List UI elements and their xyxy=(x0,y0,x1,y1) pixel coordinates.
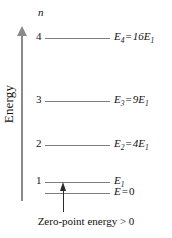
level-value: 9E xyxy=(133,93,145,105)
level-equals: = xyxy=(124,30,132,42)
energy-axis-label: Energy xyxy=(1,74,17,134)
level-symbol: E xyxy=(114,93,121,105)
level-value: 4E xyxy=(133,137,145,149)
level-number: 4 xyxy=(36,30,42,42)
level-label: E3=9E1 xyxy=(114,93,149,105)
level-label: E2=4E1 xyxy=(114,137,149,149)
zero-equals: = xyxy=(121,185,129,197)
level-symbol: E xyxy=(114,137,121,149)
level-subscript: 3 xyxy=(121,99,125,108)
zero-symbol: E xyxy=(114,185,121,197)
level-value-subscript: 1 xyxy=(145,99,149,108)
level-value-subscript: 1 xyxy=(150,36,154,45)
level-value-subscript: 1 xyxy=(145,143,149,152)
level-line xyxy=(45,145,110,146)
level-symbol: E xyxy=(114,30,121,42)
level-subscript: 2 xyxy=(121,143,125,152)
energy-axis-line xyxy=(21,34,23,201)
level-label: E4=16E1 xyxy=(114,30,154,42)
level-equals: = xyxy=(124,93,132,105)
zero-point-energy-arrow-shaft xyxy=(63,190,64,212)
zero-point-energy-caption: Zero-point energy > 0 xyxy=(0,215,172,227)
level-subscript: 4 xyxy=(121,36,125,45)
level-equals: = xyxy=(124,137,132,149)
zero-value: 0 xyxy=(129,185,135,197)
level-number: 3 xyxy=(36,93,42,105)
level-line xyxy=(45,182,110,183)
level-number: 2 xyxy=(36,137,42,149)
level-number: 1 xyxy=(36,174,42,186)
level-value: 16E xyxy=(133,30,151,42)
zero-energy-label: E=0 xyxy=(114,185,134,197)
level-line xyxy=(45,101,110,102)
energy-level-diagram: n Energy 4 E4=16E1 3 E3=9E1 2 E2=4E1 1 E… xyxy=(0,0,172,238)
zero-point-energy-arrowhead-icon xyxy=(60,182,66,191)
level-line xyxy=(45,38,110,39)
zero-energy-line xyxy=(45,193,110,194)
quantum-number-header: n xyxy=(38,6,44,18)
